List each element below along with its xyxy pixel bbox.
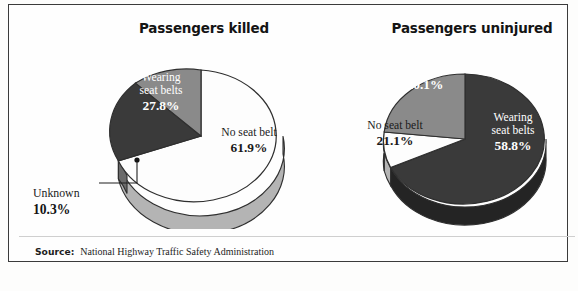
callout-anchor-dot-left: [134, 157, 139, 162]
pie-left-svg: [87, 33, 319, 229]
callout-value: 10.3%: [33, 202, 80, 218]
callout-name: Unknown: [33, 186, 80, 201]
pie-right-slice-unknown: [384, 74, 465, 139]
footer-divider: [19, 236, 575, 237]
pie-left-callout-unknown: Unknown 10.3%: [33, 186, 80, 218]
figure-canvas: Passengers killed Passengers uninjured: [0, 0, 578, 291]
pie-right-svg: [352, 37, 578, 231]
source-text: National Highway Traffic Safety Administ…: [80, 246, 274, 257]
pie-chart-passengers-uninjured: Wearing seat belts 58.8% No seat belt 21…: [352, 37, 578, 231]
chart-title-passengers-uninjured: Passengers uninjured: [377, 20, 567, 36]
source-note: Source: National Highway Traffic Safety …: [35, 246, 274, 257]
pie-chart-passengers-killed: No seat belt 61.9% Wearing seat belts 27…: [87, 33, 319, 229]
source-label: Source:: [35, 246, 74, 257]
figure-frame: Passengers killed Passengers uninjured: [8, 4, 568, 262]
